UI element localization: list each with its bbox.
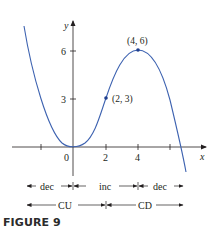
concavity-label-cd: CD	[138, 200, 152, 211]
interval-label-dec-right: dec	[153, 181, 167, 192]
x-tick-label-0: 0	[64, 152, 69, 163]
y-tick-label-6: 6	[61, 46, 66, 57]
interval-label-dec-left: dec	[40, 181, 54, 192]
concavity-intervals-row	[27, 201, 183, 209]
figure-graph: x y 0 2 4 3 6 (2, 3) (4, 6) dec inc dec	[0, 0, 211, 236]
figure-caption: FIGURE 9	[3, 216, 61, 229]
point-inflection-label: (2, 3)	[112, 94, 133, 105]
point-local-max-label: (4, 6)	[127, 36, 148, 47]
x-axis-label: x	[199, 151, 205, 162]
y-tick-label-3: 3	[61, 94, 66, 105]
interval-label-inc: inc	[99, 181, 112, 192]
concavity-label-cu: CU	[58, 200, 73, 211]
point-inflection	[104, 96, 108, 100]
point-local-max	[136, 48, 140, 52]
x-tick-label-4: 4	[135, 152, 140, 163]
y-axis-label: y	[63, 20, 69, 31]
x-tick-label-2: 2	[103, 152, 108, 163]
